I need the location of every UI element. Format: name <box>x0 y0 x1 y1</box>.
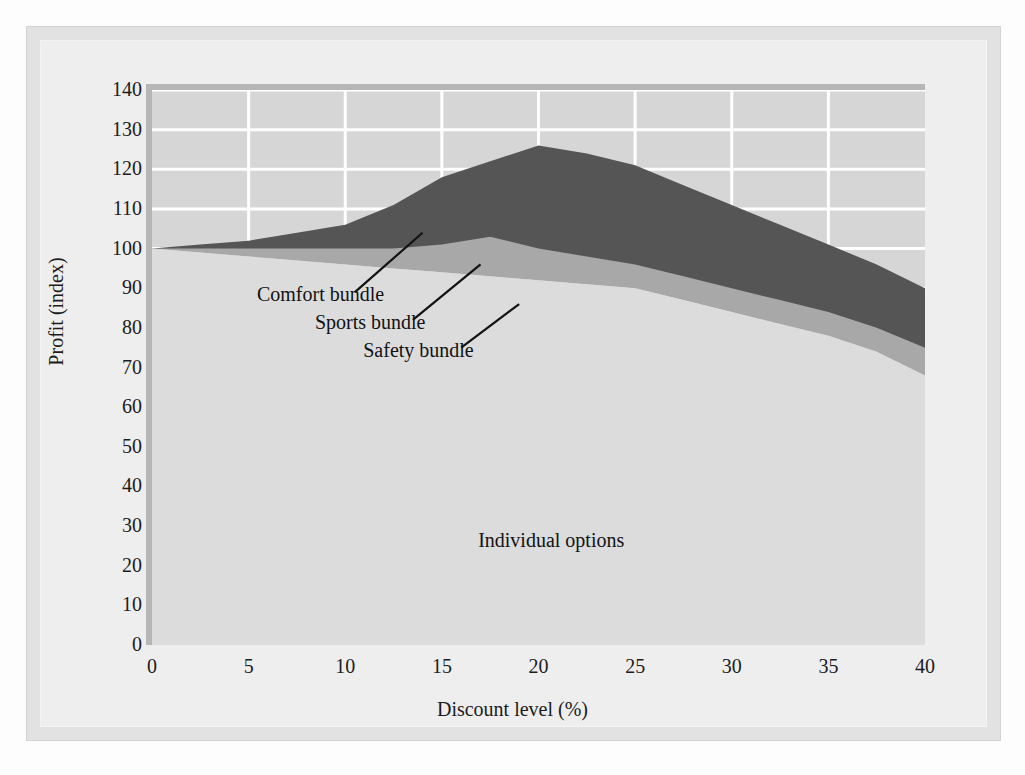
y-tick-label: 130 <box>80 119 142 139</box>
x-tick-label: 10 <box>315 655 375 678</box>
x-tick-label: 15 <box>412 655 472 678</box>
annotation-individual-options: Individual options <box>478 529 624 552</box>
area-bands <box>152 146 925 646</box>
annotation-sports-bundle: Sports bundle <box>315 311 426 334</box>
y-tick-label: 140 <box>80 79 142 99</box>
y-tick-label: 50 <box>80 436 142 456</box>
y-axis-label: Profit (index) <box>45 212 68 412</box>
annotation-safety-bundle: Safety bundle <box>363 339 474 362</box>
x-tick-label: 35 <box>798 655 858 678</box>
y-tick-label: 0 <box>80 634 142 654</box>
y-tick-label: 30 <box>80 515 142 535</box>
annotation-comfort-bundle: Comfort bundle <box>257 283 384 306</box>
x-tick-label: 40 <box>895 655 955 678</box>
x-tick-label: 0 <box>122 655 182 678</box>
y-tick-label: 10 <box>80 594 142 614</box>
y-tick-label: 110 <box>80 198 142 218</box>
x-tick-label: 30 <box>702 655 762 678</box>
y-tick-label: 70 <box>80 357 142 377</box>
x-tick-label: 25 <box>605 655 665 678</box>
y-tick-label: 100 <box>80 238 142 258</box>
stacked-area-chart <box>152 90 925 645</box>
x-tick-label: 20 <box>509 655 569 678</box>
y-tick-label: 40 <box>80 475 142 495</box>
x-axis-label: Discount level (%) <box>0 698 1025 721</box>
y-tick-label: 20 <box>80 555 142 575</box>
figure-container: 0102030405060708090100110120130140 05101… <box>0 0 1025 775</box>
y-tick-label: 90 <box>80 277 142 297</box>
y-tick-label: 120 <box>80 158 142 178</box>
y-tick-label: 60 <box>80 396 142 416</box>
x-tick-label: 5 <box>219 655 279 678</box>
y-tick-label: 80 <box>80 317 142 337</box>
plot-area <box>152 90 925 645</box>
